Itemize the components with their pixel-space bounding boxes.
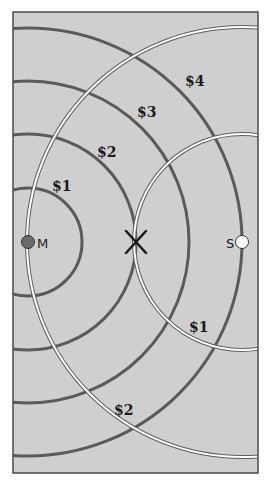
source-label-1: $1 [189, 319, 208, 335]
source-label-2: $2 [114, 402, 133, 418]
market-point-label: M [37, 236, 48, 251]
market-point [22, 236, 35, 249]
source-point-label: S [226, 236, 234, 251]
isocost-diagram: $4 $3 $2 $1 $1 $2 M S [0, 0, 275, 483]
market-label-3: $3 [137, 104, 156, 120]
market-label-4: $4 [185, 73, 205, 89]
market-label-1: $1 [52, 178, 71, 194]
source-point [236, 236, 249, 249]
market-label-2: $2 [97, 144, 116, 160]
